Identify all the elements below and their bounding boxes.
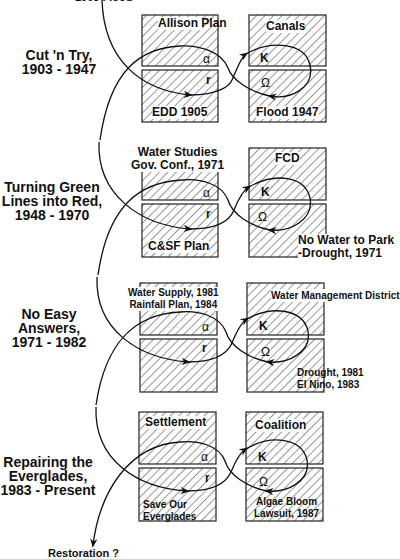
era4-r-symbol: r xyxy=(205,471,210,485)
era2-title-line1: Turning Green xyxy=(0,180,104,194)
era1-r-symbol: r xyxy=(206,73,211,87)
era4-k-box-label: Coalition xyxy=(255,419,306,432)
era2-alpha-line2: Gov. Conf., 1971 xyxy=(131,159,224,172)
era3-omega-symbol: Ω xyxy=(261,345,270,359)
era4-omega-box-label: Algae Bloom Lawsuit, 1987 xyxy=(254,496,319,520)
era4-r-box-label: Save Our Everglades xyxy=(143,499,196,523)
era2-r-symbol: r xyxy=(206,207,211,221)
era4-title-line2: Everglades, xyxy=(0,469,96,483)
era3-alpha-line2: Rainfall Plan, 1984 xyxy=(128,299,219,311)
era3-title-line3: 1971 - 1982 xyxy=(6,335,92,349)
era3-omega-box-label: Drought, 1981 El Nino, 1983 xyxy=(297,367,364,391)
era3-title-line1: No Easy xyxy=(6,307,92,321)
era4-omega-line2: Lawsuit, 1987 xyxy=(254,508,319,520)
era1-omega-symbol: Ω xyxy=(261,76,270,90)
era3-title: No Easy Answers, 1971 - 1982 xyxy=(6,307,92,349)
era3-alpha-box-label: Water Supply, 1981 Rainfall Plan, 1984 xyxy=(128,287,219,311)
era2-r-box-label: C&SF Plan xyxy=(148,240,209,253)
era2-title-line3: 1948 - 1970 xyxy=(0,208,104,222)
era1-omega-box-label: Flood 1947 xyxy=(256,106,319,119)
era3-omega-line1: Drought, 1981 xyxy=(297,367,364,379)
era4-omega-line1: Algae Bloom xyxy=(254,496,319,508)
era2-k-box-label: FCD xyxy=(275,152,300,165)
era1-r-box-label: EDD 1905 xyxy=(152,106,207,119)
era4-title: Repairing the Everglades, 1983 - Present xyxy=(0,455,96,497)
era4-alpha-symbol: α xyxy=(201,450,208,464)
era1-title-line2: 1903 - 1947 xyxy=(14,62,104,76)
era2-title: Turning Green Lines into Red, 1948 - 197… xyxy=(0,180,104,222)
era3-title-line2: Answers, xyxy=(6,321,92,335)
era1-title: Cut 'n Try, 1903 - 1947 xyxy=(14,48,104,76)
era2-omega-box-label: No Water to Park -Drought, 1971 xyxy=(298,234,394,260)
era3-alpha-symbol: α xyxy=(202,320,209,334)
era4-r-line1: Save Our xyxy=(143,499,196,511)
era1-k-box-label: Canals xyxy=(266,20,305,33)
era1-alpha-symbol: α xyxy=(203,52,210,66)
restoration-label: Restoration ? xyxy=(48,547,119,559)
era4-alpha-box-label: Settlement xyxy=(145,416,206,429)
era4-r-line2: Everglades xyxy=(143,511,196,523)
era2-omega-symbol: Ω xyxy=(258,210,267,224)
era4-title-line3: 1983 - Present xyxy=(0,483,96,497)
era2-k-symbol: K xyxy=(261,185,270,199)
era4-title-line1: Repairing the xyxy=(0,455,96,469)
era1-title-line1: Cut 'n Try, xyxy=(14,48,104,62)
era3-omega-line2: El Nino, 1983 xyxy=(297,379,364,391)
era3-k-box-label: Water Management District xyxy=(271,289,400,302)
era2-alpha-symbol: α xyxy=(203,186,210,200)
top-cut-label: 1903 Flood xyxy=(75,0,132,4)
era4-k-symbol: K xyxy=(258,450,267,464)
era3-k-symbol: K xyxy=(259,319,268,333)
era2-title-line2: Lines into Red, xyxy=(0,194,104,208)
era3-r-symbol: r xyxy=(202,341,207,355)
era2-omega-line2: -Drought, 1971 xyxy=(298,247,394,260)
era1-alpha-box-label: Allison Plan xyxy=(158,17,202,30)
era4-omega-symbol: Ω xyxy=(259,475,268,489)
era1-k-symbol: K xyxy=(260,51,269,65)
era3-alpha-line1: Water Supply, 1981 xyxy=(128,287,219,299)
era2-alpha-box-label: Water Studies Gov. Conf., 1971 xyxy=(131,146,224,172)
